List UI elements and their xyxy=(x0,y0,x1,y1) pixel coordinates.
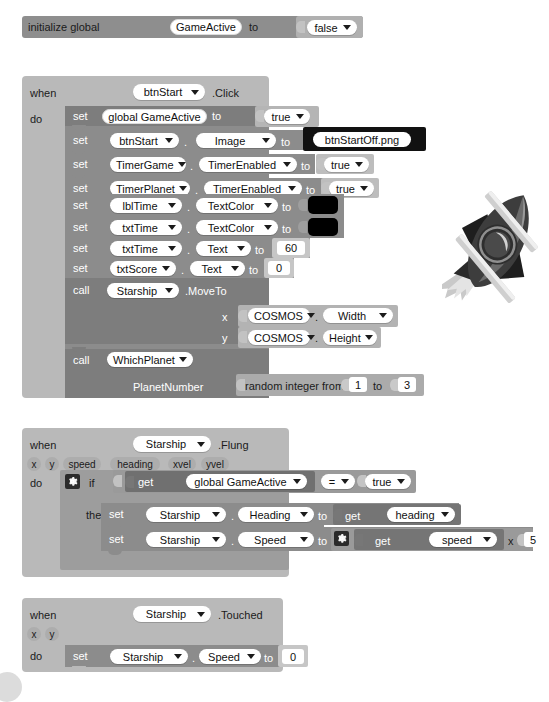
starship-label-6: Starship xyxy=(116,651,170,663)
param-chip-heading-flung[interactable]: heading xyxy=(110,457,160,471)
false-dropdown[interactable]: false xyxy=(307,20,357,35)
black-color-swatch-1[interactable] xyxy=(308,196,338,214)
param-chip-y-touched[interactable]: y xyxy=(45,627,59,641)
chevron-down-icon xyxy=(165,138,173,143)
random-from-field[interactable]: 1 xyxy=(349,377,367,392)
to-label-11: to xyxy=(264,653,273,664)
dot-separator-x: . xyxy=(315,312,318,323)
chevron-down-icon xyxy=(197,612,205,617)
set-keyword-8: set xyxy=(73,263,88,274)
image-property-dropdown[interactable]: Image xyxy=(196,133,276,148)
starship-component-dropdown-2[interactable]: Starship xyxy=(133,436,211,452)
true-dropdown-2[interactable]: true xyxy=(324,157,369,172)
chevron-down-icon xyxy=(212,537,220,542)
chevron-down-icon xyxy=(165,288,173,293)
if-keyword: if xyxy=(89,478,95,489)
global-gameactive-dropdown[interactable]: global GameActive xyxy=(186,474,307,489)
dot-separator-5: . xyxy=(187,202,190,213)
text-property-dropdown-2[interactable]: Text xyxy=(190,261,245,276)
btnstart-component-dropdown[interactable]: btnStart xyxy=(133,84,205,100)
timerenabled-label-1: TimerEnabled xyxy=(205,159,279,171)
number-60-field[interactable]: 60 xyxy=(277,241,305,255)
set-keyword-6: set xyxy=(73,222,88,233)
set-keyword-11: set xyxy=(73,651,88,662)
param-chip-yvel-flung[interactable]: yvel xyxy=(201,457,229,471)
chevron-down-icon xyxy=(179,186,187,191)
dot-separator-6: . xyxy=(187,224,190,235)
true-plug-1 xyxy=(255,110,264,122)
cosmos-component-dropdown-2[interactable]: COSMOS xyxy=(248,330,310,345)
whichplanet-procedure-dropdown[interactable]: WhichPlanet xyxy=(107,352,193,367)
cosmos-height-plug xyxy=(238,331,247,343)
height-property-dropdown[interactable]: Height xyxy=(323,330,377,345)
textcolor-property-dropdown-1[interactable]: TextColor xyxy=(196,198,278,213)
timergame-component-dropdown[interactable]: TimerGame xyxy=(110,157,186,172)
timerenabled-property-dropdown-1[interactable]: TimerEnabled xyxy=(199,157,297,172)
get-keyword-2: get xyxy=(345,511,360,522)
starship-component-dropdown-4[interactable]: Starship xyxy=(146,532,226,547)
textcolor-property-dropdown-2[interactable]: TextColor xyxy=(196,220,278,235)
random-integer-plug xyxy=(236,379,245,391)
number-0-field[interactable]: 0 xyxy=(268,261,290,275)
set-txtscore-text-row[interactable] xyxy=(65,258,294,278)
timerenabled-label-2: TimerEnabled xyxy=(210,183,284,195)
dot-separator-3: . xyxy=(190,161,193,172)
btnstartoff-text-field[interactable]: btnStartOff.png xyxy=(313,132,411,147)
lbltime-component-dropdown[interactable]: lblTime xyxy=(110,198,182,213)
btnstart-component-dropdown-2[interactable]: btnStart xyxy=(110,133,179,148)
false-plug xyxy=(296,21,305,33)
param-chip-y-flung[interactable]: y xyxy=(45,457,59,471)
dot-separator-y: . xyxy=(315,333,318,344)
mutator-gear-icon-2[interactable] xyxy=(334,531,349,546)
chevron-down-icon xyxy=(179,357,187,362)
chevron-down-icon xyxy=(343,25,351,30)
global-variable-name[interactable]: GameActive xyxy=(170,19,242,35)
cosmos-component-dropdown-1[interactable]: COSMOS xyxy=(248,308,310,323)
dot-separator-2: . xyxy=(184,137,187,148)
param-chip-x-touched[interactable]: x xyxy=(27,627,41,641)
chevron-down-icon xyxy=(307,313,315,318)
chevron-down-icon xyxy=(288,186,296,191)
speed-property-dropdown-2[interactable]: Speed xyxy=(199,649,261,664)
call-keyword-2: call xyxy=(73,355,90,366)
btnstart-component-label: btnStart xyxy=(139,86,187,98)
true-dropdown-4[interactable]: true xyxy=(365,474,411,489)
heading-property-dropdown[interactable]: Heading xyxy=(238,507,314,522)
black-color-swatch-2[interactable] xyxy=(308,218,338,236)
do-keyword-1: do xyxy=(30,114,42,125)
heading-variable-dropdown[interactable]: heading xyxy=(387,507,455,522)
chevron-down-icon xyxy=(365,335,373,340)
gear-glyph xyxy=(67,476,78,487)
param-chip-xvel-flung[interactable]: xvel xyxy=(168,457,196,471)
global-gameactive-field[interactable]: global GameActive xyxy=(102,109,207,124)
chevron-down-icon xyxy=(283,162,291,167)
multiply-operator-label: x xyxy=(508,536,514,547)
starship-component-dropdown-3[interactable]: Starship xyxy=(146,507,226,522)
set-keyword-10: set xyxy=(109,534,124,545)
width-property-dropdown[interactable]: Width xyxy=(323,308,393,323)
true-dropdown-1[interactable]: true xyxy=(264,109,310,124)
starship-component-dropdown-5[interactable]: Starship xyxy=(133,606,211,622)
speed-variable-dropdown[interactable]: speed xyxy=(429,532,497,547)
equals-operator-dropdown[interactable]: = xyxy=(321,474,355,489)
global-gameactive-get-label: global GameActive xyxy=(192,476,289,488)
true-label-1: true xyxy=(270,111,292,123)
number-0-field-2[interactable]: 0 xyxy=(282,649,304,664)
mutator-gear-icon[interactable] xyxy=(65,474,80,489)
starship-component-dropdown-1[interactable]: Starship xyxy=(107,283,179,298)
param-chip-x-flung[interactable]: x xyxy=(27,457,41,471)
chevron-down-icon xyxy=(247,654,255,659)
btnstart-label-2: btnStart xyxy=(116,135,161,147)
starship-component-dropdown-6[interactable]: Starship xyxy=(110,649,188,664)
txttime-component-dropdown-1[interactable]: txtTime xyxy=(110,220,182,235)
param-chip-speed-flung[interactable]: speed xyxy=(63,457,101,471)
txtscore-component-dropdown[interactable]: txtScore xyxy=(110,261,176,276)
speed-property-dropdown-1[interactable]: Speed xyxy=(238,532,314,547)
txttime-component-dropdown-2[interactable]: txtTime xyxy=(110,241,182,256)
text-property-dropdown-1[interactable]: Text xyxy=(196,241,251,256)
initialize-to-label: to xyxy=(249,22,258,33)
do-keyword-2: do xyxy=(30,478,42,489)
random-to-field[interactable]: 3 xyxy=(398,377,416,392)
multiply-operand-field[interactable]: 5 xyxy=(524,532,542,547)
